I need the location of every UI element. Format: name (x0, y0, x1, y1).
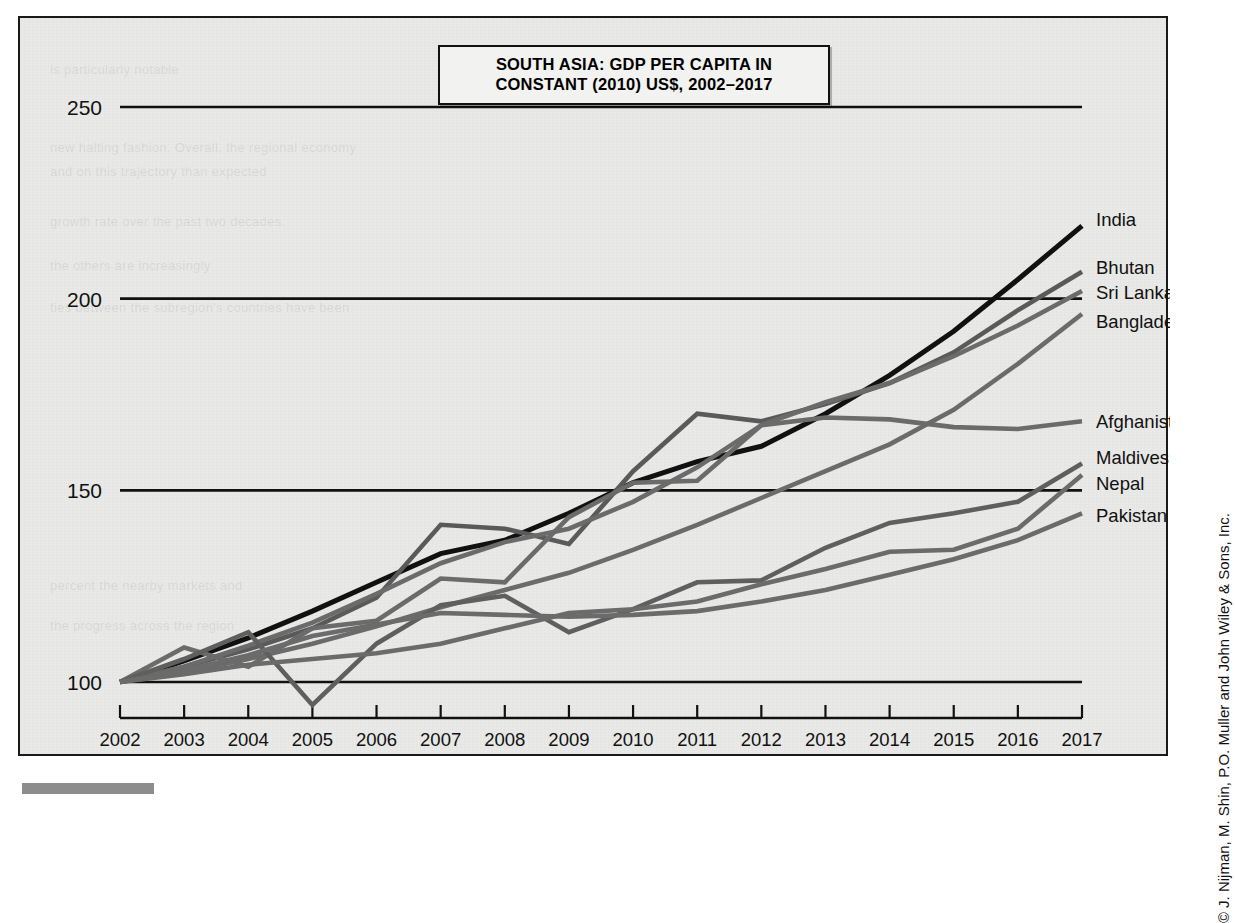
chart-title-line-1: SOUTH ASIA: GDP PER CAPITA IN (446, 54, 822, 74)
x-axis-label-2015: 2015 (933, 729, 974, 750)
series-line-sri-lanka (120, 291, 1082, 682)
x-axis-label-2008: 2008 (484, 729, 525, 750)
chart-frame: is particularly notable new halting fash… (18, 16, 1168, 756)
series-label-nepal: Nepal (1096, 473, 1144, 494)
y-axis-label-250: 250 (67, 96, 102, 119)
series-label-bhutan: Bhutan (1096, 257, 1155, 278)
x-axis-label-2006: 2006 (356, 729, 397, 750)
x-axis-label-2007: 2007 (420, 729, 461, 750)
x-axis-label-2009: 2009 (548, 729, 589, 750)
series-label-maldives: Maldives (1096, 447, 1169, 468)
x-axis-label-2002: 2002 (99, 729, 140, 750)
x-axis-label-2016: 2016 (997, 729, 1038, 750)
x-axis-label-2013: 2013 (805, 729, 846, 750)
x-axis-label-2014: 2014 (869, 729, 910, 750)
chart-title-box: SOUTH ASIA: GDP PER CAPITA IN CONSTANT (… (438, 45, 830, 105)
x-axis-label-2017: 2017 (1061, 729, 1102, 750)
x-axis-label-2010: 2010 (612, 729, 653, 750)
series-label-afghanistan: Afghanistan (1096, 411, 1170, 432)
x-axis-label-2003: 2003 (164, 729, 205, 750)
series-label-sri-lanka: Sri Lanka (1096, 282, 1170, 303)
series-label-pakistan: Pakistan (1096, 505, 1167, 526)
series-label-bangladesh: Bangladesh (1096, 311, 1170, 332)
series-label-india: India (1096, 209, 1137, 230)
x-axis-label-2004: 2004 (228, 729, 269, 750)
line-chart: 1001502002502002200320042005200620072008… (20, 18, 1170, 758)
x-axis-label-2012: 2012 (741, 729, 782, 750)
y-axis-label-100: 100 (67, 671, 102, 694)
y-axis-label-150: 150 (67, 479, 102, 502)
copyright-credit: © J. Nijman, M. Shin, P.O. Muller and Jo… (1215, 513, 1232, 923)
y-axis-label-200: 200 (67, 288, 102, 311)
chart-title-line-2: CONSTANT (2010) US$, 2002–2017 (446, 74, 822, 94)
credit-container: © J. Nijman, M. Shin, P.O. Muller and Jo… (1195, 258, 1221, 738)
decorative-bar (22, 783, 154, 794)
plot-area: 1001502002502002200320042005200620072008… (20, 18, 1170, 758)
x-axis-label-2005: 2005 (292, 729, 333, 750)
x-axis-label-2011: 2011 (677, 729, 717, 750)
